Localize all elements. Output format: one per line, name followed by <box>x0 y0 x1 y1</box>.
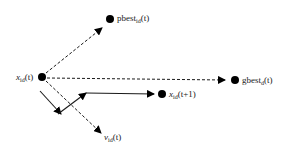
label-next: xid(t+1) <box>169 89 196 102</box>
label-pbest-main: pbest <box>117 13 136 23</box>
label-next-arg: (t+1) <box>178 89 196 99</box>
node-current <box>38 73 46 81</box>
label-gbest-main: gbest <box>242 75 261 85</box>
label-current-arg: (t) <box>25 72 34 82</box>
label-pbest-arg: (t) <box>141 13 150 23</box>
pso-diagram: xid(t) pbestid(t) gbestd(t) xid(t+1) vid… <box>0 0 288 155</box>
label-current: xid(t) <box>16 72 33 85</box>
edge-to-next-position <box>86 93 154 94</box>
label-velocity: vid(t) <box>104 132 121 145</box>
label-gbest: gbestd(t) <box>242 75 273 88</box>
label-pbest: pbestid(t) <box>117 13 149 26</box>
edge-current-to-pbest <box>46 28 102 73</box>
edge-inertia <box>40 91 61 114</box>
node-pbest <box>106 15 114 23</box>
label-velocity-arg: (t) <box>113 132 122 142</box>
node-next <box>158 90 166 98</box>
label-gbest-arg: (t) <box>264 75 273 85</box>
edge-current-to-gbest <box>47 78 225 80</box>
node-gbest <box>231 76 239 84</box>
